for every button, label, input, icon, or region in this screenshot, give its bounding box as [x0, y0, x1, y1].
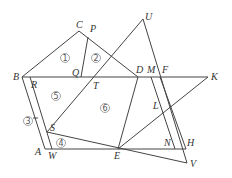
svg-text:1: 1 — [62, 54, 67, 63]
point-label-M: M — [146, 64, 156, 75]
point-label-A: A — [34, 146, 42, 157]
point-label-F: F — [161, 64, 169, 75]
point-label-U: U — [145, 11, 153, 22]
svg-text:2: 2 — [93, 54, 98, 63]
svg-text:4: 4 — [58, 139, 63, 148]
region-marker-6: 6 — [101, 104, 110, 114]
point-label-R: R — [30, 79, 37, 90]
point-label-W: W — [48, 150, 58, 161]
svg-text:6: 6 — [102, 104, 107, 113]
point-label-C: C — [76, 19, 83, 30]
region-marker-3: 3 — [24, 117, 33, 127]
region-marker-1: 1 — [61, 54, 70, 64]
point-label-B: B — [13, 71, 19, 82]
segments — [22, 19, 208, 163]
point-label-S: S — [50, 122, 55, 133]
svg-text:5: 5 — [53, 92, 58, 101]
region-markers: 123456 — [24, 54, 110, 149]
svg-text:3: 3 — [25, 117, 30, 126]
point-label-H: H — [186, 137, 195, 148]
geometry-diagram: 123456 CPUBRQTDMFKLSAWENHV — [0, 0, 232, 178]
point-label-L: L — [152, 100, 159, 111]
point-label-V: V — [190, 158, 198, 169]
point-label-D: D — [135, 64, 144, 75]
point-label-K: K — [210, 71, 219, 82]
point-label-T: T — [93, 80, 100, 91]
region-marker-2: 2 — [92, 54, 101, 64]
point-label-P: P — [89, 23, 96, 34]
region-marker-5: 5 — [52, 92, 61, 102]
point-label-E: E — [113, 150, 120, 161]
point-label-N: N — [163, 137, 172, 148]
region-marker-4: 4 — [57, 139, 66, 149]
point-label-Q: Q — [72, 67, 80, 78]
